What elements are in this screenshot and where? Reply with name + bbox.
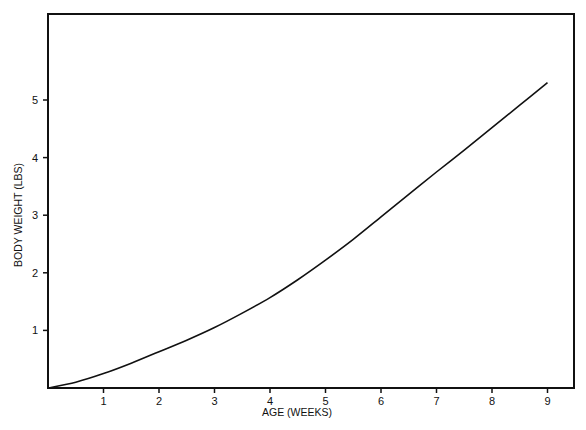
x-tick-label: 9 [544,395,550,407]
y-tick-label: 3 [32,209,38,221]
body-weight-curve [48,83,548,388]
y-tick-label: 4 [32,152,38,164]
x-axis-ticks: 123456789 [100,388,550,407]
x-tick-label: 3 [211,395,217,407]
x-tick-label: 7 [433,395,439,407]
y-axis-ticks: 12345 [32,94,48,336]
y-axis-label: BODY WEIGHT (LBS) [12,163,24,267]
y-tick-label: 1 [32,324,38,336]
plot-frame [48,14,574,388]
x-tick-label: 6 [378,395,384,407]
line-chart: 12345 123456789 AGE (WEEKS) BODY WEIGHT … [0,0,586,430]
x-tick-label: 2 [156,395,162,407]
x-tick-label: 1 [100,395,106,407]
y-tick-label: 5 [32,94,38,106]
x-tick-label: 8 [489,395,495,407]
x-axis-label: AGE (WEEKS) [262,406,332,418]
y-tick-label: 2 [32,267,38,279]
